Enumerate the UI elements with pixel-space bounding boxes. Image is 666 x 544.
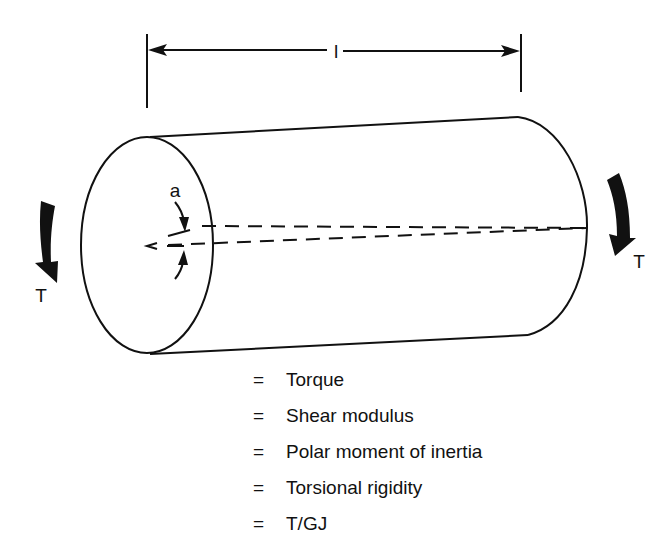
torque-arrow-right-icon <box>607 173 636 256</box>
legend-definition: T/GJ <box>286 512 327 536</box>
legend-definition: Torsional rigidity <box>286 476 422 500</box>
center-tick <box>147 243 157 249</box>
angle-arrowhead-bottom-icon <box>178 250 188 265</box>
reference-line-lower <box>168 228 586 245</box>
cylinder-bottom-edge <box>150 335 528 354</box>
cylinder-right-end <box>518 117 587 335</box>
legend-equals: = <box>253 368 264 392</box>
torque-label-left: T <box>35 285 47 306</box>
legend-definition: Polar moment of inertia <box>286 440 482 464</box>
cylinder <box>81 117 587 354</box>
torque-label-right: T <box>633 251 645 272</box>
legend-equals: = <box>253 476 264 500</box>
length-label: l <box>334 41 338 62</box>
legend-definition: Shear modulus <box>286 404 414 428</box>
twist-lines <box>168 226 586 245</box>
legend-equals: = <box>253 440 264 464</box>
legend-equals: = <box>253 512 264 536</box>
reference-line-upper <box>202 226 586 228</box>
torque-arrow-left-icon <box>35 201 58 283</box>
legend-definition: Torque <box>286 368 344 392</box>
cylinder-top-edge <box>150 117 518 137</box>
angle-ray-upper <box>168 230 190 236</box>
angle-marks <box>147 230 190 249</box>
legend-equals: = <box>253 404 264 428</box>
angle-label: a <box>170 180 181 201</box>
